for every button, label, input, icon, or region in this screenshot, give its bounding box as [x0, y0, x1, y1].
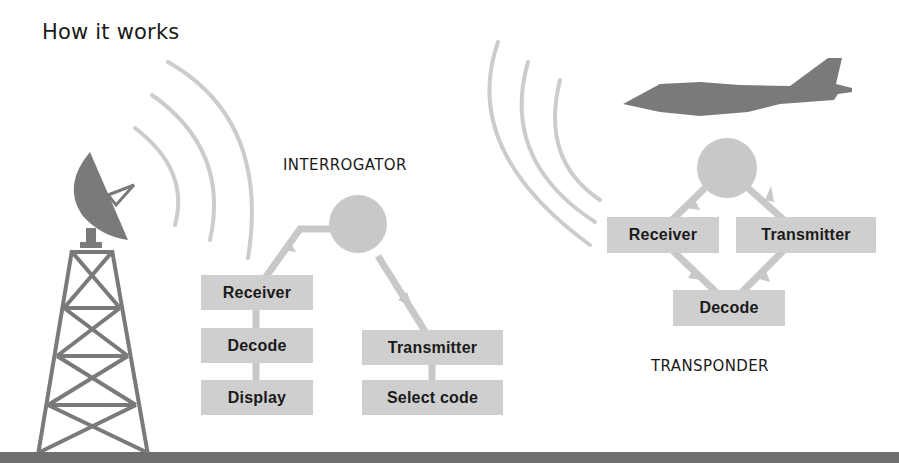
- interrogator-transmitter-box: Transmitter: [362, 330, 503, 365]
- interrogator-label: INTERROGATOR: [283, 156, 407, 174]
- interrogator-select-code-box: Select code: [362, 380, 503, 415]
- lattice-tower-icon: [38, 250, 148, 455]
- transponder-decode-box: Decode: [673, 290, 785, 326]
- radio-wave-icon: [489, 42, 600, 245]
- transponder-flow: [672, 138, 784, 292]
- jet-aircraft-icon: [623, 58, 852, 116]
- interrogator-decode-box: Decode: [201, 328, 313, 363]
- transponder-label: TRANSPONDER: [651, 357, 769, 375]
- interrogator-receiver-box: Receiver: [201, 275, 313, 310]
- transponder-transmitter-box: Transmitter: [736, 217, 876, 253]
- transponder-receiver-box: Receiver: [607, 217, 719, 253]
- radar-dish-icon: [74, 152, 134, 248]
- ground-strip: [0, 452, 899, 463]
- interrogator-display-box: Display: [201, 380, 313, 415]
- radio-wave-icon: [135, 62, 252, 258]
